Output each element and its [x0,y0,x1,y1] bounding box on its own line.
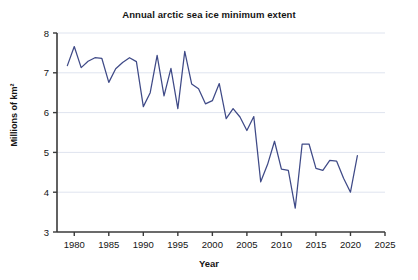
gridlines-group [57,33,385,192]
data-series-line [67,47,357,209]
x-tick-label: 2005 [236,239,257,250]
chart-container: Annual arctic sea ice minimum extent Mil… [0,0,418,280]
x-tick-label: 2010 [271,239,292,250]
y-tick-label: 8 [44,28,49,39]
chart-plot-area: 345678 198019851990199520002005201020152… [0,0,418,280]
x-tick-label: 1980 [64,239,85,250]
y-tick-labels-group: 345678 [44,28,49,238]
x-tick-label: 2020 [340,239,361,250]
y-tick-label: 6 [44,107,49,118]
y-tick-label: 5 [44,147,49,158]
x-tick-label: 2025 [374,239,395,250]
x-tick-label: 1990 [133,239,154,250]
x-tick-label: 1995 [167,239,188,250]
y-tick-label: 4 [44,187,49,198]
y-tick-label: 7 [44,67,49,78]
x-tick-label: 2015 [305,239,326,250]
x-tick-label: 2000 [202,239,223,250]
x-tick-labels-group: 1980198519901995200020052010201520202025 [64,239,396,250]
x-tick-label: 1985 [98,239,119,250]
y-tick-label: 3 [44,227,49,238]
